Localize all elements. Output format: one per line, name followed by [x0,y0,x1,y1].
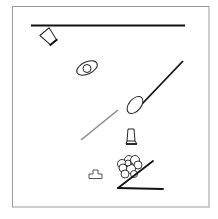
ball[interactable] [121,170,129,178]
ball[interactable] [125,160,131,166]
game-canvas[interactable]: Physics puzzle scene [0,0,218,219]
